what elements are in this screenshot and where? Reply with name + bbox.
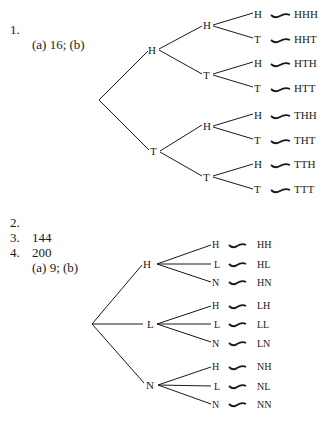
tree1-outcome: HTH	[294, 57, 317, 69]
tree1-node: T	[203, 69, 210, 81]
tree2-leaf: H	[212, 239, 219, 250]
tree1-outcome: HTT	[294, 82, 316, 94]
tree1-outcome: HHT	[294, 33, 317, 45]
tree2-leaf: H	[212, 300, 219, 311]
tree1-leaf: T	[254, 82, 261, 94]
tree2-node: H	[143, 258, 151, 270]
tree1-leaf: H	[254, 8, 262, 20]
tree2-leaf: L	[214, 381, 220, 392]
tree-diagrams: H T H T H T H T H T H T H T HHH HHT HTH …	[0, 0, 326, 439]
tree2-outcome: NH	[257, 361, 271, 372]
tree2-leaf: N	[212, 399, 219, 410]
tree1-node: T	[203, 171, 210, 183]
tree2-outcome: HH	[257, 239, 271, 250]
tree1-branches	[99, 13, 253, 189]
tree2-leaf: L	[214, 259, 220, 270]
tree1-leaf: H	[254, 158, 262, 170]
tree2-outcome: NN	[257, 399, 271, 410]
tree1-leaf: H	[254, 57, 262, 69]
tree1-outcome: HHH	[294, 8, 318, 20]
tree2-outcome: LH	[257, 300, 270, 311]
tree2-outcome: HL	[257, 259, 270, 270]
tree2-leaf: H	[212, 361, 219, 372]
tree1-node: T	[150, 145, 157, 157]
tree2-tildes	[229, 244, 246, 406]
tree2-leaf: N	[212, 277, 219, 288]
tree1-outcome: TTH	[294, 158, 315, 170]
tree1-node: H	[203, 120, 211, 132]
tree2-outcome: LN	[257, 338, 270, 349]
tree2-leaf: L	[214, 319, 220, 330]
tree2-outcome: HN	[257, 277, 271, 288]
tree1-leaf: T	[254, 33, 261, 45]
tree2-outcome: LL	[257, 319, 269, 330]
tree2-node: L	[147, 318, 154, 330]
tree1-labels: H T H T H T H T H T H T H T HHH HHT HTH …	[148, 8, 318, 195]
tree1-leaf: T	[254, 134, 261, 146]
tree2-node: N	[146, 379, 154, 391]
tree1-outcome: THT	[294, 134, 316, 146]
tree1-outcome: THH	[294, 109, 317, 121]
tree1-node: H	[148, 44, 156, 56]
tree1-leaf: H	[254, 109, 262, 121]
tree1-outcome: TTT	[294, 183, 314, 195]
tree2-outcome: NL	[257, 381, 270, 392]
tree1-leaf: T	[254, 183, 261, 195]
tree1-node: H	[203, 19, 211, 31]
tree2-leaf: N	[212, 338, 219, 349]
tree1-tildes	[271, 14, 290, 192]
